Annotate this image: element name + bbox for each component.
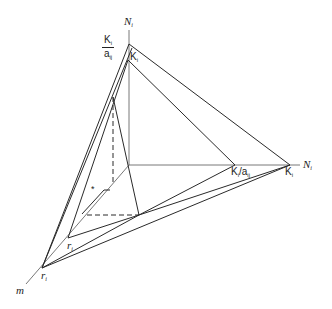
m-axis-label: m [16,285,24,296]
outer-plane-top-bottom [42,44,129,268]
top-fraction-label: Ki aij [102,35,114,60]
equilibrium-star-label: * [91,185,95,194]
horizontal-K-label: Ki [285,167,293,178]
diagram-canvas [0,0,332,309]
outer-plane-right-bottom [42,165,290,268]
vertical-axis-label: Ni [124,16,133,28]
horizontal-axis-label: Ni [303,159,312,171]
equilibrium-line [113,97,139,215]
m-axis [26,165,129,284]
outer-plane-top-right [129,44,290,165]
r-outer-label: ri [41,270,47,282]
horizontal-Kfrac-label: Ki/aij [231,167,250,178]
vertical-K-label: Ki [130,52,138,63]
inner-plane-top-bottom [68,60,128,238]
outer-r-to-upper-edge [42,48,132,268]
outer-r-to-intersection [42,215,139,268]
inner-plane-top-right [128,60,235,165]
equilibrium-marker-bracket [82,190,110,214]
intersection-to-Ki [139,165,290,215]
r-inner-label: ri [67,240,73,252]
